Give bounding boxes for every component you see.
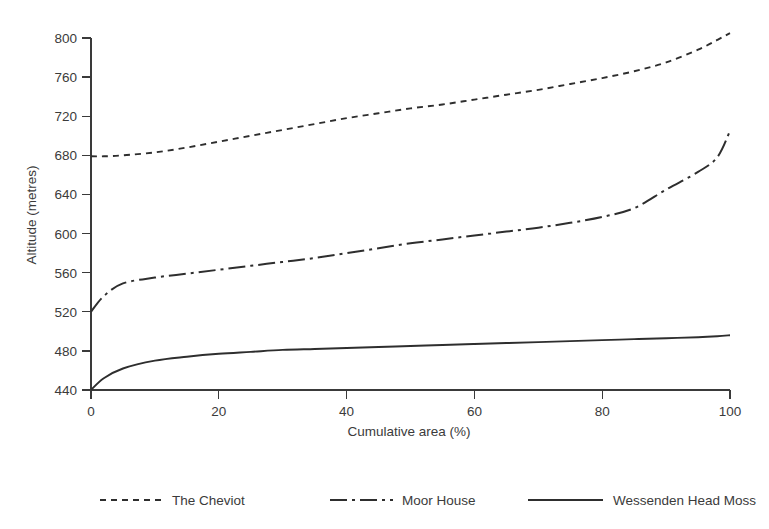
x-tick-label: 100 bbox=[719, 404, 742, 419]
legend-label-moor-house: Moor House bbox=[402, 493, 476, 508]
chart-legend: The CheviotMoor HouseWessenden Head Moss bbox=[100, 493, 756, 508]
y-axis-title: Altitude (metres) bbox=[24, 165, 39, 264]
y-tick-label: 720 bbox=[54, 109, 77, 124]
y-tick-label: 480 bbox=[54, 344, 77, 359]
x-axis-ticks: 020406080100 bbox=[87, 390, 741, 419]
x-tick-label: 0 bbox=[87, 404, 95, 419]
chart-canvas: 440480520560600640680720760800 020406080… bbox=[0, 0, 769, 529]
x-axis-title: Cumulative area (%) bbox=[347, 424, 470, 439]
x-tick-label: 60 bbox=[467, 404, 482, 419]
y-tick-label: 600 bbox=[54, 227, 77, 242]
y-tick-label: 800 bbox=[54, 31, 77, 46]
y-tick-label: 760 bbox=[54, 70, 77, 85]
y-tick-label: 680 bbox=[54, 148, 77, 163]
axes-group bbox=[91, 38, 730, 390]
legend-label-the-cheviot: The Cheviot bbox=[172, 493, 245, 508]
data-series-group bbox=[91, 33, 730, 390]
chart-figure: 440480520560600640680720760800 020406080… bbox=[0, 0, 769, 529]
y-tick-label: 560 bbox=[54, 266, 77, 281]
series-line-wessenden-head-moss bbox=[91, 335, 730, 390]
series-line-moor-house bbox=[91, 131, 730, 312]
legend-label-wessenden-head-moss: Wessenden Head Moss bbox=[613, 493, 756, 508]
y-tick-label: 640 bbox=[54, 187, 77, 202]
y-tick-label: 520 bbox=[54, 305, 77, 320]
x-tick-label: 20 bbox=[211, 404, 226, 419]
y-tick-label: 440 bbox=[54, 383, 77, 398]
series-line-the-cheviot bbox=[91, 33, 730, 156]
x-tick-label: 80 bbox=[595, 404, 610, 419]
y-axis-ticks: 440480520560600640680720760800 bbox=[54, 31, 91, 398]
x-tick-label: 40 bbox=[339, 404, 354, 419]
